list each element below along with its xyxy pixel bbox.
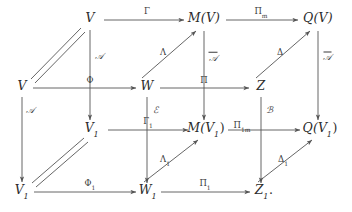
object-v1-bot: V1 [15, 184, 30, 200]
label-script-a-bar: 𝒜 [209, 52, 218, 63]
label-script-a-tilde: 𝒜 [323, 53, 332, 62]
arrow-lambda [142, 31, 196, 78]
label-script-a-left: 𝒜 [26, 106, 35, 115]
label-delta-1: Δ1 [278, 155, 288, 166]
label-script-a-top: 𝒜 [95, 52, 104, 61]
label-gamma: Γ [144, 7, 150, 18]
object-qv1: Q(V1) [302, 122, 337, 138]
equality-v1 [32, 138, 88, 187]
label-phi: Φ [87, 76, 94, 87]
label-lambda-1: Λ1 [160, 155, 170, 166]
arrow-lambda-1 [144, 140, 198, 182]
label-lambda: Λ [160, 48, 166, 59]
object-v1-mid: V1 [85, 122, 100, 138]
label-script-e: ℰ [153, 106, 158, 115]
label-delta: Δ [277, 48, 283, 59]
object-v-top: V [85, 12, 94, 28]
label-pi-m: Πm [254, 7, 267, 18]
object-z1: Z1. [255, 184, 273, 200]
label-pi-1m: Π1m [234, 121, 251, 132]
label-gamma-1: Γ1 [143, 117, 153, 128]
label-script-b: ℬ [266, 106, 273, 115]
diagram-canvas [0, 0, 352, 212]
object-qv: Q(V) [303, 12, 333, 28]
label-phi-1: Φ1 [85, 179, 96, 190]
object-w: W [140, 80, 153, 96]
object-mv1: M(V1) [187, 122, 225, 138]
label-pi: Π [200, 76, 207, 87]
object-mv: M(V) [188, 12, 220, 28]
commutative-diagram: V M(V) Q(V) V W Z V1 M(V1) Q(V1) V1 W1 Z… [0, 0, 352, 212]
object-v-mid: V [17, 80, 26, 96]
label-pi-1: Π1 [199, 179, 210, 190]
object-w1: W1 [139, 184, 157, 200]
object-z: Z [257, 80, 266, 96]
equality-v [31, 28, 85, 83]
